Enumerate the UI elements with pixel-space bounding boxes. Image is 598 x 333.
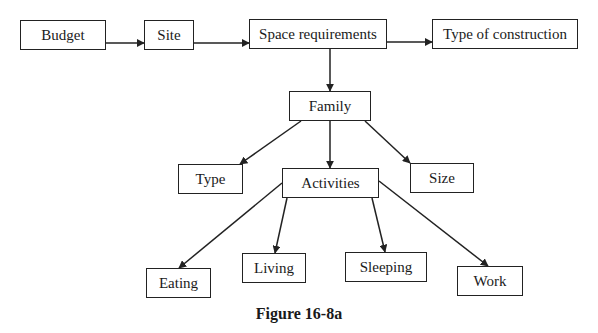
node-site: Site [144, 20, 194, 50]
arrow-family-to-type [240, 121, 301, 164]
figure-caption: Figure 16-8a [0, 305, 598, 323]
node-type: Type [178, 164, 243, 194]
node-activities: Activities [282, 168, 379, 198]
node-work: Work [457, 266, 523, 296]
node-space: Space requirements [249, 19, 387, 49]
node-budget: Budget [20, 20, 106, 50]
arrow-family-to-size [365, 121, 410, 163]
node-construction: Type of construction [432, 19, 578, 49]
arrow-activities-to-living [275, 198, 287, 253]
node-size: Size [410, 163, 474, 193]
node-living: Living [242, 253, 306, 283]
node-family: Family [289, 91, 371, 121]
node-eating: Eating [146, 268, 211, 298]
arrow-activities-to-sleeping [372, 198, 385, 252]
node-sleeping: Sleeping [345, 252, 427, 282]
